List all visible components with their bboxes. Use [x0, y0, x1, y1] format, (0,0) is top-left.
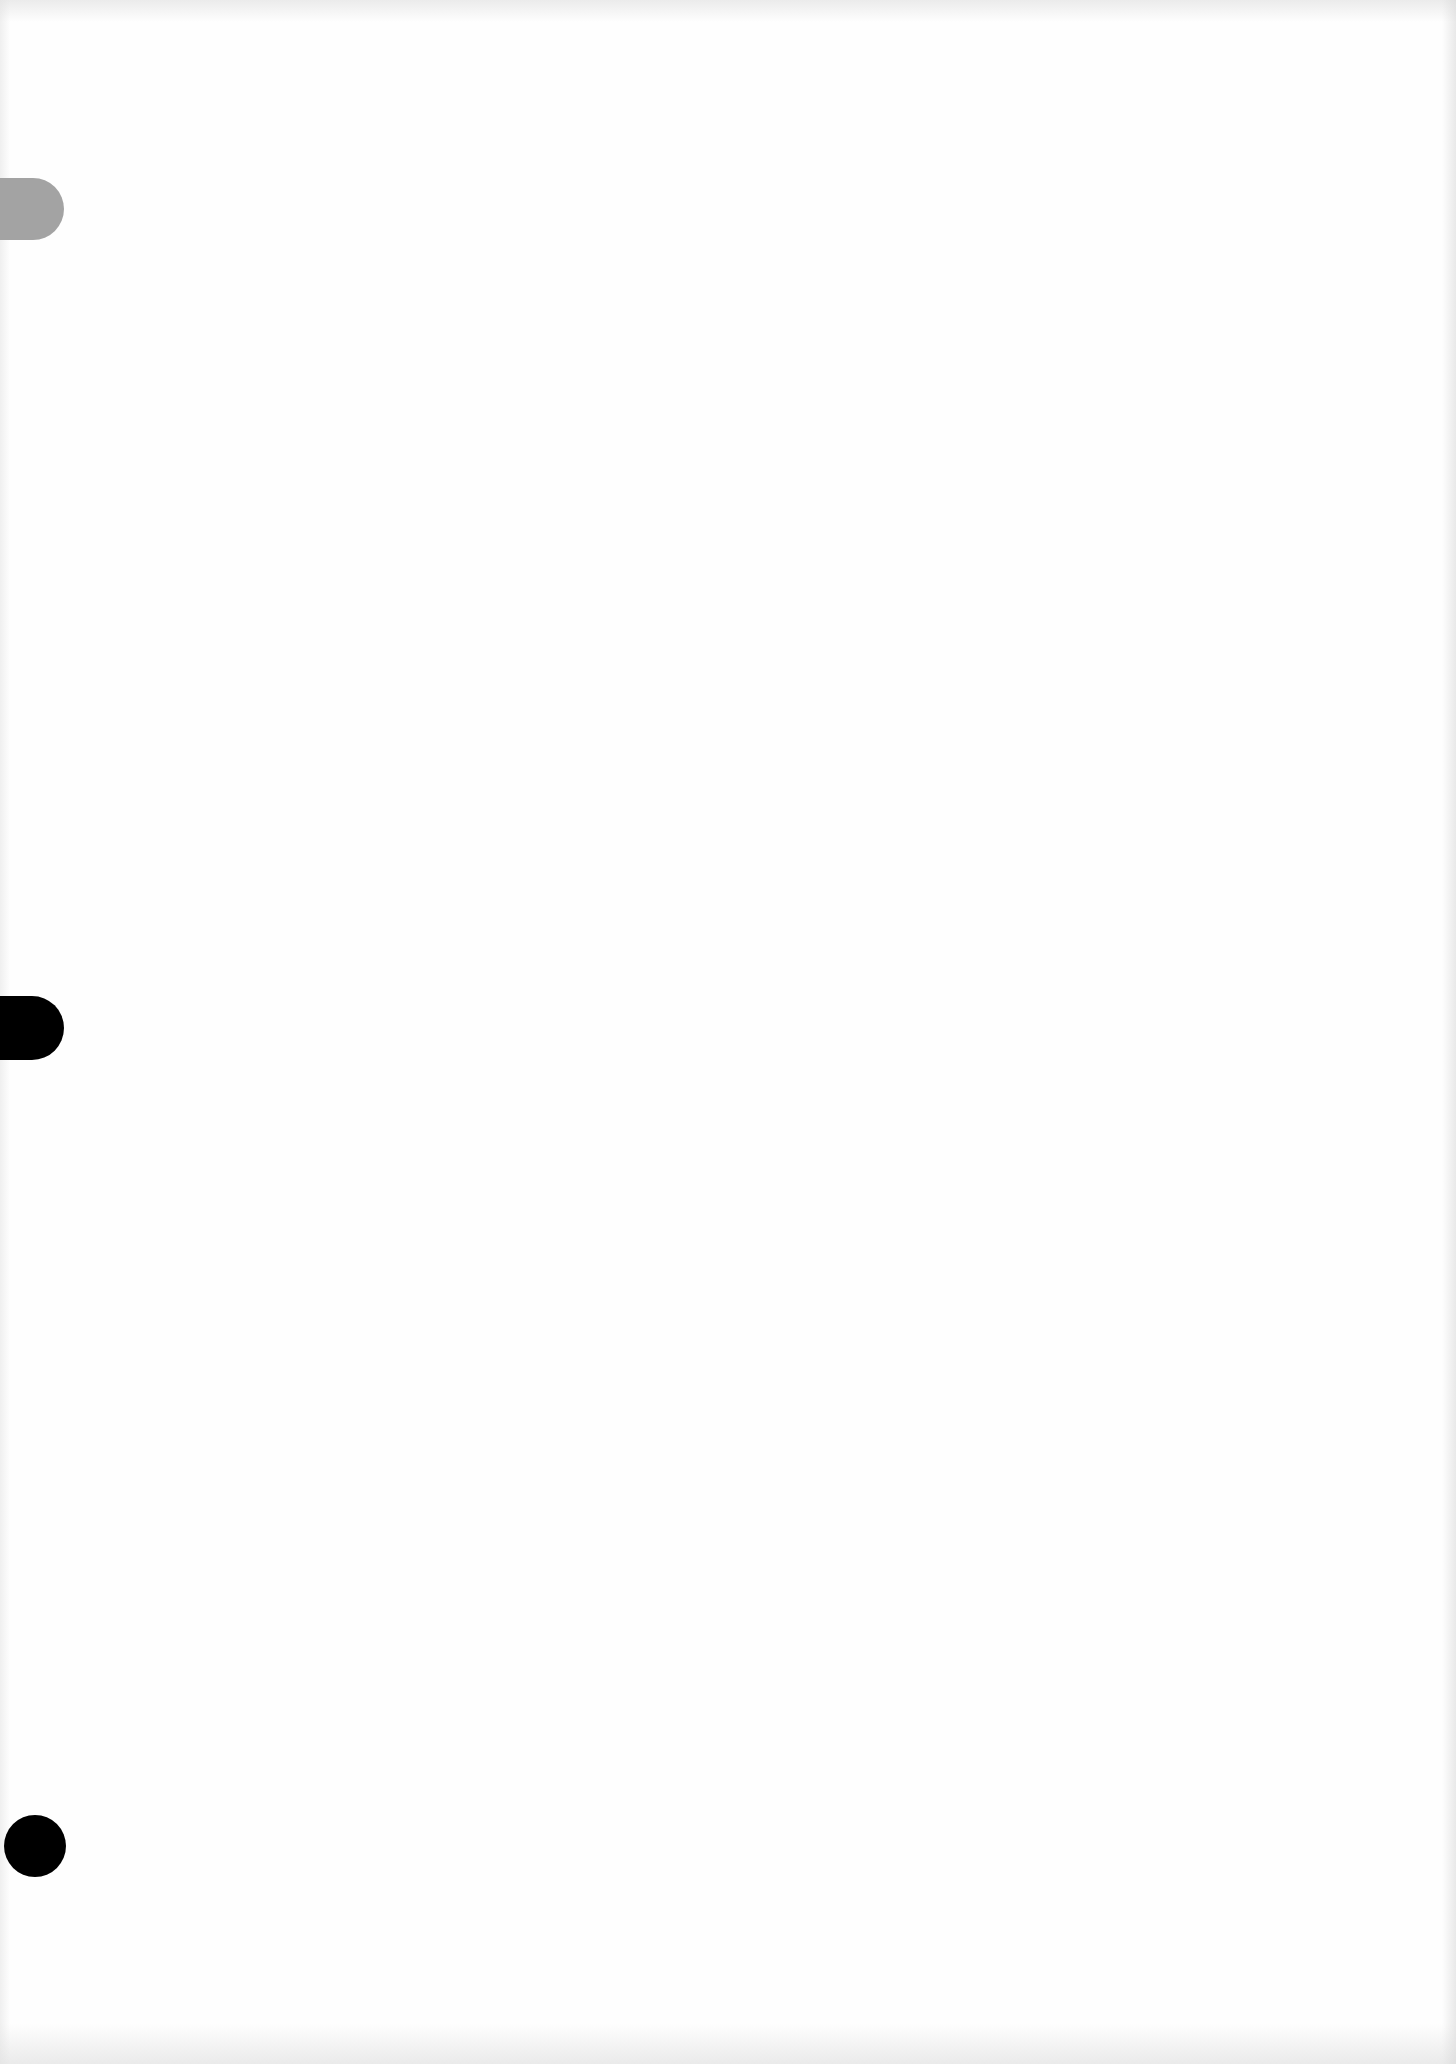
scan-edge-top — [0, 0, 1456, 22]
punch-hole-middle — [0, 996, 64, 1060]
blank-document-page — [0, 0, 1456, 2064]
punch-hole-top — [0, 178, 64, 240]
punch-hole-bottom — [4, 1815, 66, 1877]
scan-edge-bottom — [0, 2024, 1456, 2064]
scan-edge-right — [1442, 0, 1456, 2064]
